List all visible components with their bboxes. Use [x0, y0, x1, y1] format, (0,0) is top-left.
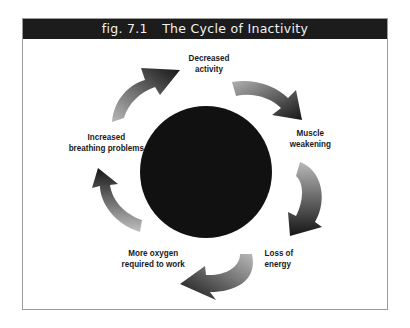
arrow-icon-4 — [180, 254, 253, 300]
arrow-icon-1 — [112, 68, 180, 122]
step-label-loss-of-energy: Loss of energy — [265, 247, 294, 269]
arrow-icon-3 — [288, 162, 322, 236]
center-circle — [140, 106, 272, 238]
step-label-decreased-activity: Decreased activity — [189, 52, 230, 74]
step-label-increased-breathing: Increased breathing problems — [69, 131, 144, 153]
cycle-diagram — [0, 0, 410, 328]
step-label-muscle-weakening: Muscle weakening — [290, 127, 331, 149]
step-label-more-oxygen: More oxygen required to work — [122, 247, 185, 269]
arrow-icon-5 — [92, 168, 142, 232]
arrow-icon-2 — [232, 81, 302, 120]
